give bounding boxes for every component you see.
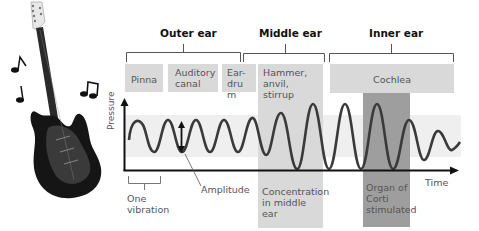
pressure-wave: [129, 104, 460, 169]
y-axis-label: Pressure: [106, 92, 117, 130]
x-axis-arrow-icon: [450, 167, 459, 175]
one-vibration-label: One vibration: [127, 193, 172, 215]
x-axis-label: Time: [425, 177, 448, 188]
amplitude-label: Amplitude: [201, 184, 250, 195]
organ-of-corti-label: Organ of Corti stimulated: [366, 182, 412, 215]
y-axis-arrow-icon: [121, 98, 129, 106]
concentration-label: Concentration in middle ear: [262, 186, 324, 219]
